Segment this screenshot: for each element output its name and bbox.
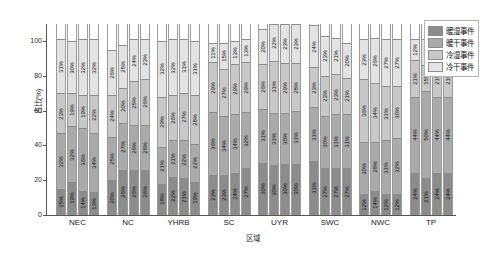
bar-segment-label: 27% [333, 186, 339, 198]
bar-segment-label: 28% [192, 114, 198, 126]
bar-segment-label: 20% [344, 55, 350, 67]
bar-segment: 32% [79, 39, 87, 95]
bar-segment-label: 30% [394, 107, 400, 119]
bar-segment: 26% [119, 170, 127, 215]
bar-segment: 15% [57, 189, 65, 215]
bar-segment: 30% [393, 86, 401, 138]
bar-segment: 27% [180, 93, 188, 140]
bar-segment-label: 22% [91, 109, 97, 121]
bar-segment: 32% [169, 39, 177, 95]
bar-segment: 30% [259, 163, 267, 215]
legend-label: 暖湿事件 [446, 25, 474, 36]
y-tick-label: 20 [24, 176, 42, 183]
bar-segment: 31% [332, 114, 340, 168]
bar-segment: 29% [242, 62, 250, 112]
legend-swatch [428, 50, 443, 60]
bar-segment: 29% [281, 63, 289, 112]
x-axis-title: 区域 [46, 232, 460, 243]
x-axis-line [46, 215, 456, 216]
bar-segment-label: 12% [361, 199, 367, 211]
bar-segment: 25% [108, 137, 116, 181]
bar-segment-label: 26% [260, 81, 266, 93]
bar-segment-label: 32% [69, 149, 75, 161]
bar-segment: 32% [393, 138, 401, 194]
bar-segment-label: 22% [192, 157, 198, 169]
bar-segment: 50% [422, 91, 430, 178]
bar-segment-label: 21% [423, 191, 429, 203]
bar-segment-label: 32% [58, 156, 64, 168]
bar-segment-label: 31% [260, 130, 266, 142]
bar-segment-label: 30% [322, 137, 328, 149]
bar-segment-label: 30% [69, 62, 75, 74]
bar-segment: 36% [360, 79, 368, 142]
bar-segment-label: 44% [445, 130, 451, 142]
bar-segment-label: 26% [142, 97, 148, 109]
bar-segment-label: 31% [311, 182, 317, 194]
bar-segment: 36% [79, 128, 87, 191]
bar-segment: 24% [411, 173, 419, 215]
bar-segment-label: 27% [181, 111, 187, 123]
bar-stack: 24%44%21%12% [410, 24, 420, 215]
bar-segment: 26% [141, 79, 149, 124]
bar-segment: 21% [332, 38, 340, 75]
legend-item: 暖干事件 [428, 37, 474, 48]
bar-segment: 11% [209, 43, 217, 62]
bar-segment: 31% [310, 107, 318, 161]
bar-segment-label: 32% [394, 161, 400, 173]
bar-segment-label: 31% [293, 132, 299, 144]
bar-segment: 27% [343, 168, 351, 215]
bar-segment-label: 23% [293, 38, 299, 50]
legend: 暖湿事件暖干事件冷湿事件冷干事件 [424, 20, 479, 77]
bar-segment-label: 31% [383, 162, 389, 174]
bar-segment: 14% [371, 191, 379, 215]
bar-segment-label: 28% [293, 82, 299, 94]
x-group-label-yhrb: YHRB [157, 219, 200, 228]
bar-stack: 19%22%28%31% [190, 24, 200, 215]
bar-segment: 24% [310, 25, 318, 67]
bar-segment: 18% [158, 184, 166, 215]
bar-segment: 23% [57, 93, 65, 133]
bar-segment-label: 31% [271, 81, 277, 93]
bar-segment-label: 27% [221, 87, 227, 99]
bar-segment: 19% [191, 182, 199, 215]
bar-segment-label: 24% [445, 188, 451, 200]
bar-segment-label: 21% [412, 73, 418, 85]
bar-segment-label: 18% [159, 193, 165, 205]
bar-stack: 31%31%23%24% [309, 24, 319, 215]
bar-segment: 22% [180, 140, 188, 178]
bar-segment-label: 12% [412, 44, 418, 56]
bar-stack: 12%32%30%27% [392, 24, 402, 215]
bar-segment: 19% [68, 93, 76, 126]
bar-segment-label: 24% [109, 110, 115, 122]
x-group-label-nec: NEC [56, 219, 99, 228]
bar-segment-label: 30% [282, 133, 288, 145]
bar-segment: 23% [141, 39, 149, 79]
bar-segment-label: 36% [210, 138, 216, 150]
stacked-bar-chart: 占比(%) 100806040200 15%32%23%31%19%32%19%… [0, 0, 484, 260]
bar-segment: 36% [209, 112, 217, 175]
bar-segment-label: 13% [243, 45, 249, 57]
bar-segment: 44% [433, 97, 441, 174]
bar-segment: 22% [270, 24, 278, 61]
bar-segment: 30% [292, 164, 300, 215]
bar-segment: 31% [382, 140, 390, 194]
bar-segment-label: 31% [192, 63, 198, 75]
bar-segment: 34% [231, 114, 239, 173]
bar-segment-label: 25% [131, 97, 137, 109]
bar-segment-label: 24% [412, 188, 418, 200]
bar-segment-label: 23% [311, 82, 317, 94]
bar-segment-label: 27% [344, 186, 350, 198]
bar-stack: 24%34%29%13% [230, 24, 240, 215]
y-tick-mark [43, 76, 47, 77]
bar-segment: 31% [191, 41, 199, 95]
bar-stack: 27%32%29%13% [241, 24, 251, 215]
bar-segment-label: 26% [170, 112, 176, 124]
bar-segment-label: 19% [192, 193, 198, 205]
bar-segment: 24% [130, 39, 138, 81]
bar-segment: 23% [321, 76, 329, 116]
bar-segment: 26% [141, 125, 149, 170]
bar-segment: 12% [360, 194, 368, 215]
bar-stack: 30%30%29%23% [280, 24, 290, 215]
legend-item: 冷湿事件 [428, 49, 474, 60]
bar-segment-label: 15% [221, 50, 227, 62]
